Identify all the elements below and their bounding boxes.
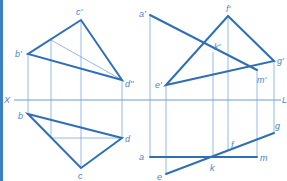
triangle-bcd-front-view: [28, 20, 122, 80]
line-e-g-top: [166, 133, 274, 174]
point-label: a: [139, 152, 144, 162]
point-label: k: [210, 163, 215, 173]
point-label: d: [125, 134, 131, 144]
projector-lines: [28, 15, 274, 174]
triangle-b-c-d-front: [28, 20, 122, 80]
point-label: c': [76, 7, 83, 17]
point-label: a': [139, 9, 146, 19]
point-label: f': [226, 4, 231, 14]
point-label: m': [257, 75, 266, 85]
axis-label-x: X: [3, 95, 11, 105]
point-label: d'': [125, 79, 134, 89]
projection-diagram: X L c'b'd''bdca'f'k'g'm'e'amfgke: [0, 0, 287, 181]
point-label: c: [78, 171, 83, 181]
point-label: g': [277, 56, 284, 66]
point-label: b: [18, 111, 23, 121]
point-label: b': [15, 49, 22, 59]
axis-label-l: L: [282, 95, 287, 105]
front-helper-line: [51, 40, 122, 80]
triangle-bcd-top-view: [28, 114, 122, 168]
triangle-efg-and-line-am-front-view: [150, 15, 274, 85]
point-label: e': [155, 80, 162, 90]
point-label: m: [260, 153, 268, 163]
point-label: k': [214, 42, 221, 52]
triangle-b-c-d-top: [28, 114, 122, 168]
point-label: e: [157, 172, 162, 181]
point-label: g: [275, 121, 280, 131]
